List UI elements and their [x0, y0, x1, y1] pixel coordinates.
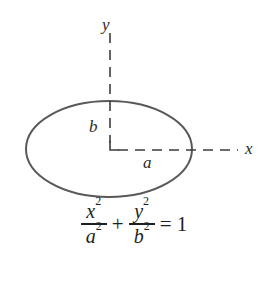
- ellipse-curve: [26, 101, 192, 197]
- denominator-exponent: 2: [144, 219, 150, 233]
- x-axis-label: x: [245, 140, 253, 157]
- ellipse-equation: x2 a2 + y2 b2 = 1: [0, 200, 268, 248]
- equation-right-hand-side: = 1: [158, 212, 188, 237]
- semi-major-axis-label: a: [143, 154, 152, 171]
- y-axis-label: y: [102, 16, 110, 33]
- numerator-exponent: 2: [143, 194, 149, 208]
- origin-right-angle-marker: [110, 141, 119, 150]
- equation-plus-operator: +: [110, 212, 126, 237]
- numerator-base: y: [134, 200, 143, 222]
- semi-minor-axis-label: b: [89, 118, 98, 135]
- denominator-base: a: [86, 225, 96, 247]
- denominator-exponent: 2: [96, 219, 102, 233]
- numerator-exponent: 2: [95, 194, 101, 208]
- equation-fraction-y-over-b: y2 b2: [129, 200, 155, 248]
- fraction-denominator: a2: [82, 225, 106, 248]
- fraction-denominator: b2: [130, 225, 154, 248]
- denominator-base: b: [134, 225, 144, 247]
- numerator-base: x: [86, 200, 95, 222]
- ellipse-figure: y x b a x2 a2 + y2 b2 = 1: [0, 0, 268, 282]
- equation-fraction-x-over-a: x2 a2: [81, 200, 107, 248]
